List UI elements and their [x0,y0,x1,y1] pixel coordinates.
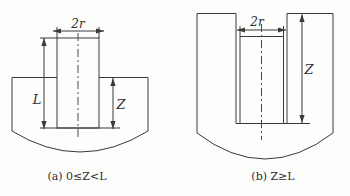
base-outline [12,78,148,153]
length-dimension-label: L [32,92,42,107]
base-outline [197,14,333,160]
depth-dimension-label: Z [115,97,126,112]
figure-a: 2r L Z (a) 0≤Z<L [12,17,148,183]
arrowhead-up [110,78,115,86]
arrowhead-up [299,14,304,22]
figure-b: 2r Z (b) Z≥L [197,14,333,184]
arrowhead-up [41,38,46,46]
arrowhead-right [278,27,286,32]
arrowhead-right [96,28,104,33]
width-dimension-label: 2r [70,17,86,31]
width-dimension-label: 2r [249,15,265,29]
diagram-page: 2r L Z (a) 0≤Z<L [0,0,350,196]
arrowhead-left [237,27,245,32]
caption-a: (a) 0≤Z<L [47,170,107,183]
rod-embedding-diagram: 2r L Z (a) 0≤Z<L [0,0,350,196]
caption-b: (b) Z≥L [251,170,295,183]
arrowhead-down [299,115,304,123]
depth-dimension-label: Z [303,62,314,77]
